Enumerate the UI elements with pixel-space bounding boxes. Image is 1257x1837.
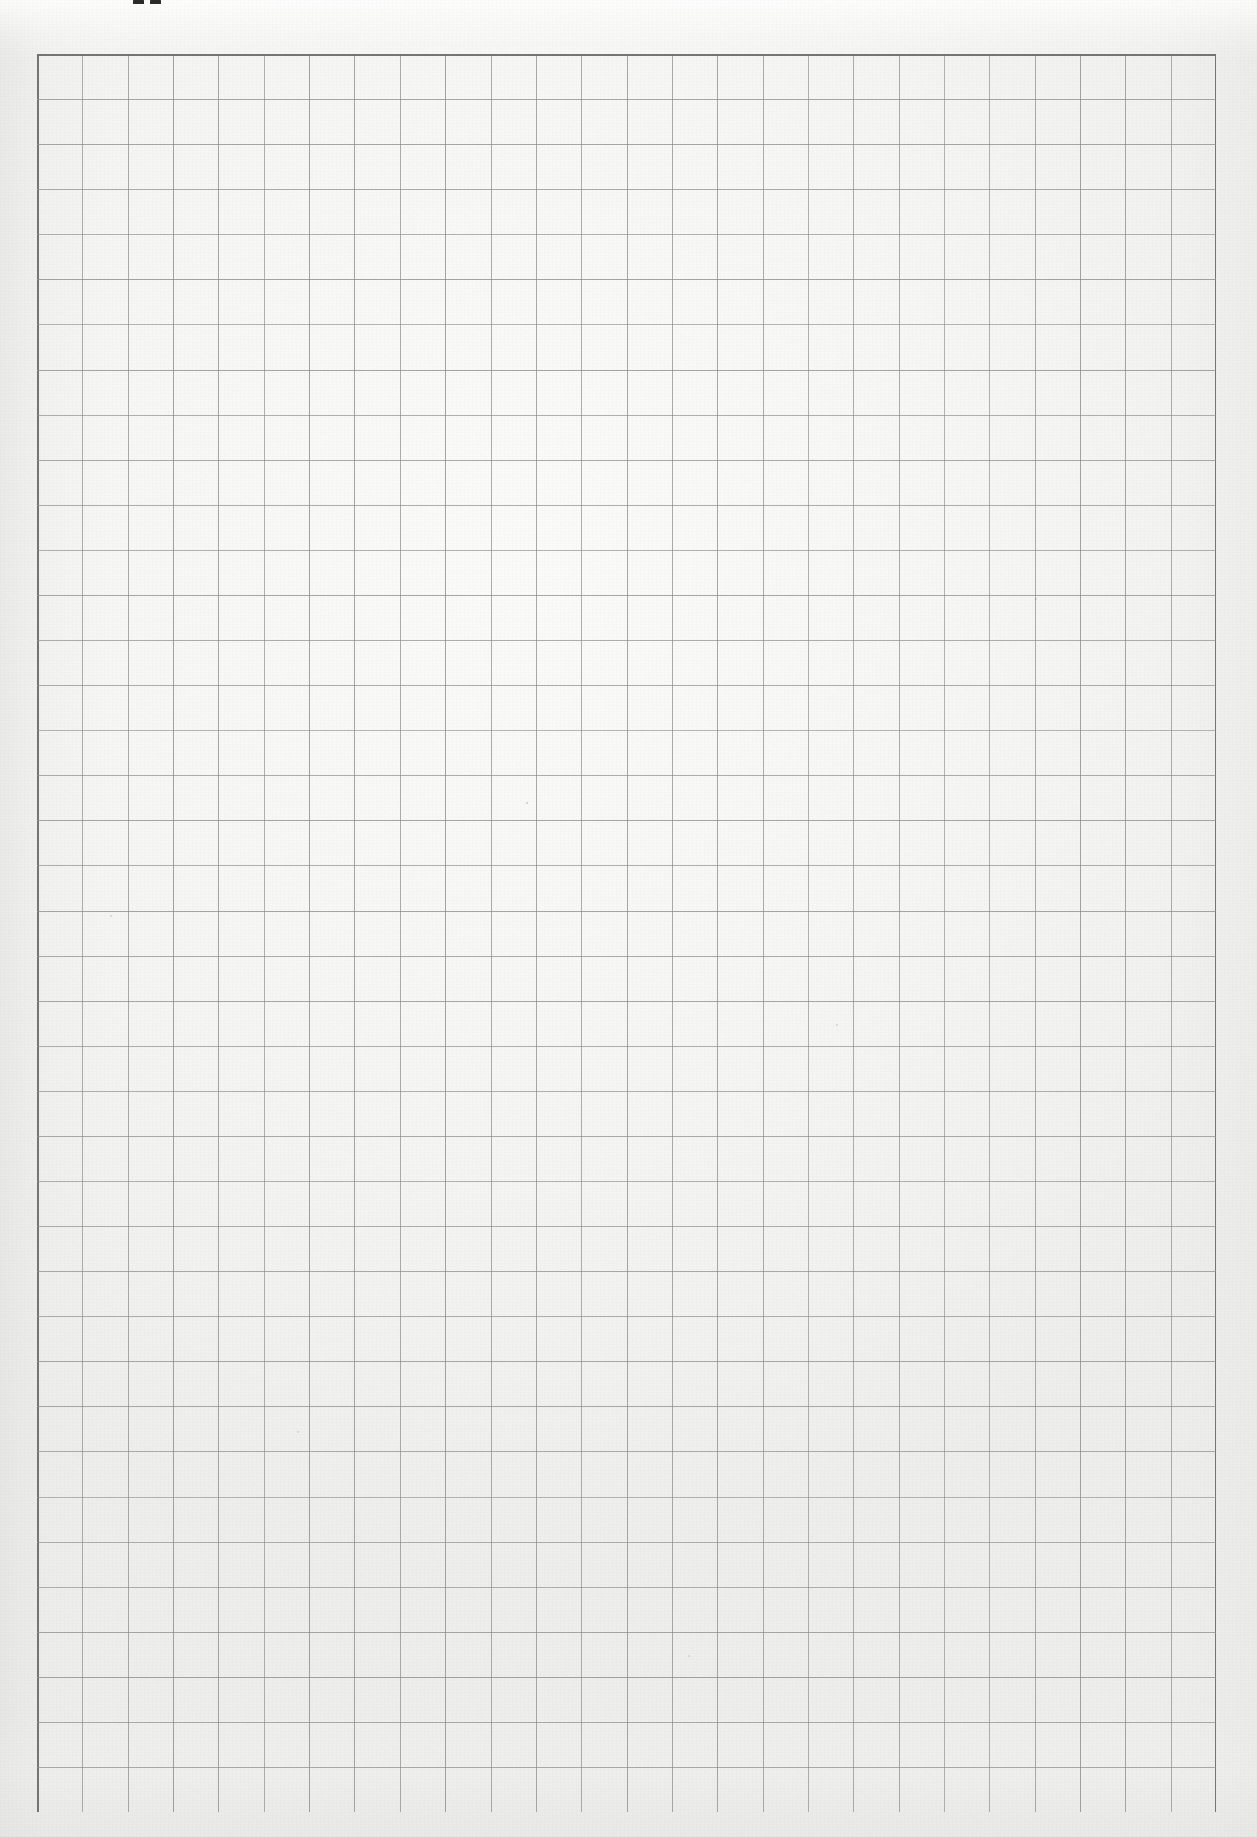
grid-lines [37,54,1216,1812]
paper-speck [526,802,528,804]
grid-paper-ruling [37,54,1216,1812]
paper-speck [688,1655,690,1657]
scanned-page [0,0,1257,1837]
top-ink-mark-right [150,0,161,4]
paper-speck [836,1024,838,1026]
top-ink-mark-left [133,0,144,4]
paper-speck [297,1431,299,1433]
paper-speck [1035,598,1037,600]
paper-speck [110,915,112,917]
